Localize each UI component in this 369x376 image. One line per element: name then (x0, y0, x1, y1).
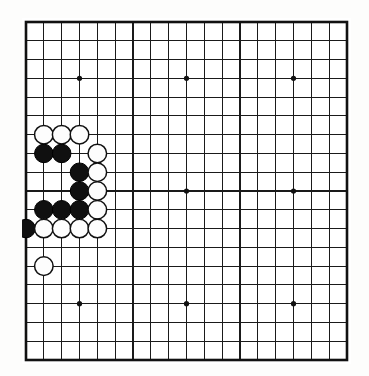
go-board-surface[interactable] (22, 18, 351, 364)
star-point (77, 76, 82, 81)
white-stone[interactable] (88, 201, 107, 220)
white-stone[interactable] (52, 125, 71, 144)
go-board-diagram (0, 0, 369, 376)
black-stone[interactable] (35, 201, 54, 220)
star-point (291, 301, 296, 306)
black-stone[interactable] (22, 219, 35, 238)
white-stone[interactable] (70, 125, 89, 144)
star-point (77, 301, 82, 306)
stone-layer[interactable] (22, 125, 107, 275)
black-stone[interactable] (70, 201, 89, 220)
white-stone[interactable] (88, 182, 107, 201)
white-stone[interactable] (35, 219, 54, 238)
white-stone[interactable] (88, 219, 107, 238)
white-stone[interactable] (88, 163, 107, 182)
white-stone[interactable] (70, 219, 89, 238)
black-stone[interactable] (52, 201, 71, 220)
white-stone[interactable] (88, 144, 107, 163)
black-stone[interactable] (52, 144, 71, 163)
black-stone[interactable] (35, 144, 54, 163)
black-stone[interactable] (70, 163, 89, 182)
star-point (184, 188, 189, 193)
go-board-canvas[interactable] (22, 18, 351, 364)
star-point (291, 76, 296, 81)
white-stone[interactable] (35, 257, 54, 276)
star-point (184, 301, 189, 306)
star-point (184, 76, 189, 81)
white-stone[interactable] (52, 219, 71, 238)
star-point (291, 188, 296, 193)
black-stone[interactable] (70, 182, 89, 201)
white-stone[interactable] (35, 125, 54, 144)
